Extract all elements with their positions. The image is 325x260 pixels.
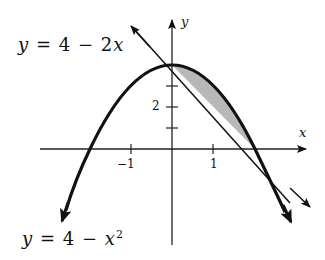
- parabola-equation-label: y = 4 − x2: [22, 228, 124, 249]
- parabola-curve: [66, 65, 285, 212]
- line-arrow-down: [290, 188, 310, 207]
- parabola-arrow-left: [62, 203, 68, 221]
- x-axis-label: x: [299, 125, 306, 140]
- tick-label-2: 2: [152, 99, 160, 113]
- line-equation-label: y = 4 − 2x: [18, 34, 124, 55]
- tick-label-neg1: −1: [117, 157, 135, 171]
- tick-label-1: 1: [210, 157, 218, 171]
- line-arrow-up: [131, 26, 150, 47]
- line-curve: [134, 29, 290, 203]
- shaded-region: [172, 65, 255, 149]
- y-axis-label: y: [181, 14, 188, 29]
- parabola-arrow-right: [283, 205, 291, 222]
